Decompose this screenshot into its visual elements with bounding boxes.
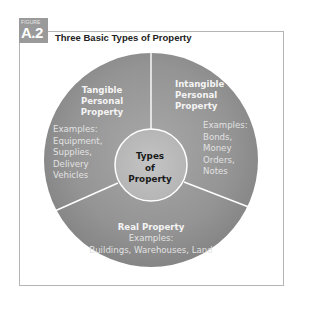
segment-heading: Property <box>175 101 235 112</box>
example-item: Bonds, <box>203 132 263 144</box>
example-item: Equipment, <box>53 136 113 148</box>
segment-heading: Personal <box>62 96 142 107</box>
example-item: Orders, <box>203 155 263 167</box>
segment-heading: Tangible <box>62 85 142 96</box>
example-item: Delivery <box>53 159 113 171</box>
segment-heading: Intangible <box>175 79 235 90</box>
segment-real-property: Real Property Examples: Buildings, Wareh… <box>71 222 231 256</box>
center-line: Property <box>118 174 182 186</box>
example-item: Vehicles <box>53 170 113 182</box>
examples-label: Examples: <box>53 124 113 136</box>
center-line: Types <box>118 151 182 163</box>
segment-heading: Personal <box>175 90 235 101</box>
example-item: Money <box>203 143 263 155</box>
segment-tangible-examples: Examples: Equipment, Supplies, Delivery … <box>53 124 113 182</box>
examples-label: Examples: <box>71 233 231 245</box>
segment-heading: Real Property <box>71 222 231 233</box>
center-label: Types of Property <box>118 151 182 186</box>
segment-tangible-personal: Tangible Personal Property <box>62 85 142 118</box>
center-line: of <box>118 163 182 175</box>
segment-heading: Property <box>62 107 142 118</box>
segment-intangible-examples: Examples: Bonds, Money Orders, Notes <box>203 120 263 178</box>
segment-intangible-personal: Intangible Personal Property <box>175 79 235 112</box>
example-item: Notes <box>203 166 263 178</box>
example-item: Supplies, <box>53 147 113 159</box>
example-item: Buildings, Warehouses, Land <box>71 245 231 257</box>
examples-label: Examples: <box>203 120 263 132</box>
